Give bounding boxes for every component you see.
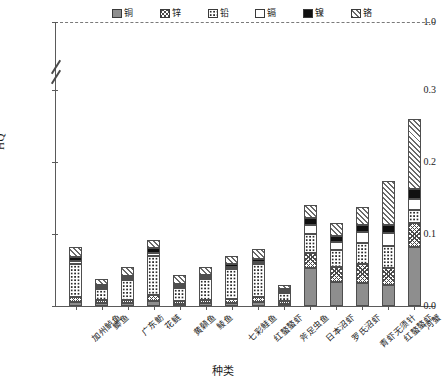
x-tick — [258, 306, 259, 310]
x-tick — [310, 306, 311, 310]
y-tick-0-0 — [52, 306, 58, 307]
x-tick — [180, 306, 181, 310]
x-tick — [284, 306, 285, 310]
legend-label-copper: 铜 — [124, 9, 133, 18]
x-tick — [388, 306, 389, 310]
bar-segment-5 — [382, 181, 395, 226]
legend-item-cadmium[interactable]: 镉 — [255, 9, 276, 18]
x-tick — [154, 306, 155, 310]
bar-column[interactable] — [408, 119, 421, 306]
bar-segment-0 — [304, 268, 317, 306]
bar-segment-4 — [356, 225, 369, 232]
bar-column[interactable] — [356, 207, 369, 306]
bar-column[interactable] — [173, 275, 186, 306]
bar-segment-5 — [199, 267, 212, 274]
bar-segment-3 — [356, 232, 369, 244]
bar-segment-2 — [356, 243, 369, 264]
bar-segment-2 — [225, 269, 238, 299]
plot-area — [55, 22, 435, 306]
bar-segment-2 — [382, 246, 395, 268]
bar-column[interactable] — [69, 247, 82, 306]
x-tick — [102, 306, 103, 310]
bar-column[interactable] — [382, 181, 395, 306]
bar-segment-3 — [408, 199, 421, 210]
legend-label-zinc: 锌 — [172, 9, 181, 18]
bar-segment-1 — [330, 267, 343, 281]
x-tick — [336, 306, 337, 310]
zinc-swatch-icon — [160, 9, 170, 18]
x-axis-label: 花鲢 — [164, 313, 183, 332]
bar-segment-2 — [304, 234, 317, 253]
cadmium-swatch-icon — [255, 9, 265, 18]
bar-segment-1 — [356, 264, 369, 283]
bar-segment-0 — [382, 285, 395, 306]
bar-segment-2 — [173, 288, 186, 301]
bar-column[interactable] — [304, 205, 317, 306]
bar-segment-2 — [147, 256, 160, 296]
bar-segment-5 — [252, 249, 265, 258]
bar-segment-3 — [304, 225, 317, 234]
hq-stacked-bar-chart: 铜 锌 铅 镉 镍 铬 1.0 0.3 0.2 — [0, 0, 445, 384]
bar-segment-0 — [356, 283, 369, 306]
x-axis-line — [55, 306, 435, 307]
bar-column[interactable] — [121, 267, 134, 306]
bar-column[interactable] — [278, 285, 291, 306]
bar-segment-2 — [69, 264, 82, 297]
bar-segment-2 — [252, 264, 265, 296]
bar-segment-5 — [225, 256, 238, 264]
x-axis-label: 广东鲂 — [140, 313, 166, 338]
bar-column[interactable] — [199, 267, 212, 306]
x-tick — [206, 306, 207, 310]
chromium-swatch-icon — [351, 9, 361, 18]
bar-segment-5 — [330, 223, 343, 236]
bar-segment-4 — [382, 225, 395, 233]
x-axis-title: 种类 — [0, 362, 445, 378]
x-tick — [414, 306, 415, 310]
bar-segment-2 — [95, 289, 108, 299]
bar-segment-0 — [330, 282, 343, 306]
bar-segment-5 — [304, 205, 317, 219]
legend-item-nickel[interactable]: 镍 — [303, 9, 324, 18]
bar-column[interactable] — [252, 249, 265, 306]
chart-legend: 铜 锌 铅 镉 镍 铬 — [112, 5, 372, 21]
bar-segment-1 — [408, 223, 421, 247]
bar-segment-5 — [356, 207, 369, 224]
lead-swatch-icon — [208, 9, 218, 18]
bar-segment-2 — [408, 210, 421, 222]
bar-segment-2 — [199, 279, 212, 300]
bar-segment-2 — [330, 250, 343, 267]
bar-segment-5 — [147, 240, 160, 248]
bar-segment-5 — [173, 275, 186, 284]
bar-column[interactable] — [95, 279, 108, 306]
legend-label-cadmium: 镉 — [267, 9, 276, 18]
legend-item-chromium[interactable]: 铬 — [351, 9, 372, 18]
bar-column[interactable] — [330, 223, 343, 306]
bar-segment-0 — [408, 247, 421, 306]
bar-segment-1 — [304, 253, 317, 268]
bar-segment-5 — [408, 119, 421, 190]
legend-label-nickel: 镍 — [315, 9, 324, 18]
copper-swatch-icon — [112, 9, 122, 18]
bar-column[interactable] — [225, 256, 238, 306]
bar-segment-3 — [330, 242, 343, 250]
legend-item-zinc[interactable]: 锌 — [160, 9, 181, 18]
nickel-swatch-icon — [303, 9, 313, 18]
x-axis-label: 黄颡鱼 — [192, 313, 218, 338]
x-tick — [76, 306, 77, 310]
bar-segment-1 — [382, 268, 395, 285]
bar-segment-2 — [278, 293, 291, 301]
bar-column[interactable] — [147, 240, 160, 306]
legend-label-lead: 铅 — [220, 9, 229, 18]
bar-segment-2 — [121, 280, 134, 299]
x-tick — [128, 306, 129, 310]
legend-item-copper[interactable]: 铜 — [112, 9, 133, 18]
bar-segment-4 — [408, 189, 421, 199]
x-tick — [232, 306, 233, 310]
bar-segment-3 — [382, 233, 395, 246]
legend-label-chromium: 铬 — [363, 9, 372, 18]
x-axis-label: 鲮鱼 — [216, 313, 235, 332]
bar-segment-5 — [121, 267, 134, 276]
y-axis-title: HQ — [0, 133, 6, 150]
x-tick — [362, 306, 363, 310]
legend-item-lead[interactable]: 铅 — [208, 9, 229, 18]
